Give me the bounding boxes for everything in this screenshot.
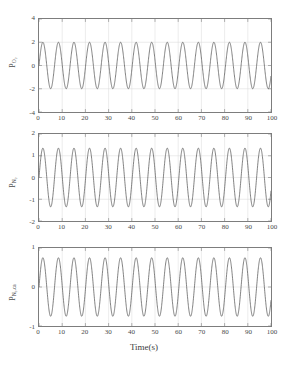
subplot-1-xtick-label: 50: [152, 115, 159, 122]
subplot-2: PN₂ -2-1012 0102030405060708090100: [0, 126, 288, 244]
subplot-2-xtick-label: 0: [36, 224, 40, 231]
subplot-3-xtick-label: 90: [245, 329, 252, 336]
subplot-1-yticks: -4-2024: [16, 18, 35, 113]
subplot-3-xtick-label: 50: [152, 329, 159, 336]
subplot-2-xtick-label: 10: [58, 224, 65, 231]
subplot-1: PO₂ -4-2024 0102030405060708090100: [0, 0, 288, 126]
figure-xlabel: Time(s): [0, 342, 288, 352]
subplot-3-yticks: -101: [16, 247, 35, 327]
subplot-2-gridlines: [39, 134, 271, 221]
subplot-3-xtick-label: 60: [175, 329, 182, 336]
subplot-1-xtick-label: 20: [81, 115, 88, 122]
subplot-2-xtick-label: 50: [152, 224, 159, 231]
subplot-2-yticks: -2-1012: [16, 133, 35, 222]
subplot-3-plot-area: [38, 247, 272, 327]
subplot-3-xtick-label: 0: [36, 329, 40, 336]
subplot-1-xtick-label: 90: [245, 115, 252, 122]
subplot-2-ytick-label: -1: [29, 196, 35, 203]
subplot-2-ytick-label: 1: [32, 152, 36, 159]
subplot-1-ytick-label: 4: [32, 15, 36, 22]
subplot-1-ytick-label: -4: [29, 110, 35, 117]
figure-container: PO₂ -4-2024 0102030405060708090100 PN₂ -: [0, 0, 288, 372]
subplot-3: PN₂,ca -101 0102030405060708090100 Time(…: [0, 244, 288, 372]
subplot-2-xticks: 0102030405060708090100: [38, 224, 272, 234]
subplot-1-xtick-label: 70: [198, 115, 205, 122]
subplot-3-xtick-label: 40: [128, 329, 135, 336]
subplot-2-xtick-label: 20: [81, 224, 88, 231]
subplot-2-xtick-label: 30: [105, 224, 112, 231]
subplot-1-xtick-label: 80: [222, 115, 229, 122]
subplot-2-ytick-label: 0: [32, 174, 36, 181]
subplot-1-plot-area: [38, 18, 272, 113]
subplot-2-svg: [39, 134, 271, 221]
subplot-3-xtick-label: 10: [58, 329, 65, 336]
subplot-2-xtick-label: 80: [222, 224, 229, 231]
subplot-2-plot-area: [38, 133, 272, 222]
subplot-2-xtick-label: 60: [175, 224, 182, 231]
subplot-2-xtick-label: 90: [245, 224, 252, 231]
subplot-3-ytick-label: 0: [32, 284, 36, 291]
subplot-2-ytick-label: -2: [29, 219, 35, 226]
subplot-1-svg: [39, 19, 271, 112]
subplot-1-ytick-label: -2: [29, 86, 35, 93]
subplot-3-xtick-label: 80: [222, 329, 229, 336]
subplot-3-ytick-label: -1: [29, 324, 35, 331]
subplot-3-xtick-label: 30: [105, 329, 112, 336]
subplot-3-xticks: 0102030405060708090100: [38, 329, 272, 339]
subplot-1-ytick-label: 0: [32, 62, 36, 69]
subplot-2-xtick-label: 40: [128, 224, 135, 231]
subplot-3-xtick-label: 20: [81, 329, 88, 336]
subplot-2-xtick-label: 70: [198, 224, 205, 231]
subplot-2-ytick-label: 2: [32, 130, 36, 137]
subplot-1-xtick-label: 40: [128, 115, 135, 122]
subplot-1-xtick-label: 30: [105, 115, 112, 122]
subplot-3-svg: [39, 248, 271, 326]
subplot-1-gridlines: [39, 19, 271, 112]
subplot-3-xtick-label: 100: [267, 329, 278, 336]
subplot-1-xtick-label: 100: [267, 115, 278, 122]
subplot-3-ytick-label: 1: [32, 244, 36, 251]
subplot-3-xtick-label: 70: [198, 329, 205, 336]
subplot-1-xtick-label: 10: [58, 115, 65, 122]
subplot-1-xtick-label: 60: [175, 115, 182, 122]
subplot-1-xtick-label: 0: [36, 115, 40, 122]
subplot-2-xtick-label: 100: [267, 224, 278, 231]
subplot-1-xticks: 0102030405060708090100: [38, 115, 272, 125]
subplot-1-ytick-label: 2: [32, 38, 36, 45]
